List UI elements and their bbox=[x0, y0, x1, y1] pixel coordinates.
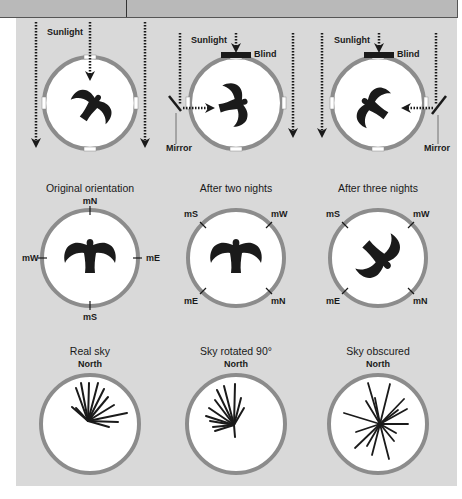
sky-panel-real: Real sky North bbox=[41, 345, 139, 473]
mS-label: mS bbox=[184, 209, 198, 219]
cage-window bbox=[282, 97, 286, 109]
mE-label: mE bbox=[146, 253, 160, 263]
cage-panel-sunlight: Sunlight bbox=[36, 22, 145, 151]
sunlight-label: Sunlight bbox=[47, 27, 83, 37]
orientation-panel-three-nights: After three nights mS mW mE mN bbox=[326, 182, 430, 306]
orientation-panel-two-nights: After two nights mS mW mE mN bbox=[184, 182, 288, 306]
cage-circle bbox=[187, 375, 285, 473]
mW-label: mW bbox=[271, 209, 288, 219]
panel-title: Sky obscured bbox=[346, 345, 410, 357]
cage-panel-mirror-right: Sunlight Blind Mirror bbox=[322, 33, 451, 153]
north-label: North bbox=[366, 359, 390, 369]
north-label: North bbox=[78, 359, 102, 369]
north-label: North bbox=[224, 359, 248, 369]
mS-label: mS bbox=[326, 209, 340, 219]
panel-title: Original orientation bbox=[46, 182, 134, 194]
mW-label: mW bbox=[413, 209, 430, 219]
bird-orientation-diagram: Sunlight Sunlight Blind Mirror Sun bbox=[0, 0, 462, 499]
sky-panel-obscured: Sky obscured North bbox=[329, 345, 427, 473]
sky-panel-rotated: Sky rotated 90° North bbox=[187, 345, 285, 473]
cage-window bbox=[230, 147, 242, 151]
cage-window bbox=[42, 97, 46, 109]
cage-window bbox=[372, 147, 384, 151]
cage-panel-mirror-left: Sunlight Blind Mirror bbox=[166, 33, 293, 153]
mirror bbox=[432, 96, 446, 114]
mS-label: mS bbox=[83, 312, 97, 322]
mN-label: mN bbox=[83, 196, 98, 206]
cage-window bbox=[330, 97, 334, 109]
mE-label: mE bbox=[184, 296, 198, 306]
cage-window bbox=[84, 147, 96, 151]
mN-label: mN bbox=[413, 296, 428, 306]
mirror-label: Mirror bbox=[166, 143, 193, 153]
panel-title: Sky rotated 90° bbox=[200, 345, 272, 357]
sunlight-label: Sunlight bbox=[334, 35, 370, 45]
panel-title: After two nights bbox=[200, 182, 272, 194]
orientation-panel-original: Original orientation mN mS mW mE bbox=[22, 182, 160, 322]
panel-title: After three nights bbox=[338, 182, 418, 194]
mN-label: mN bbox=[271, 296, 286, 306]
panel-title: Real sky bbox=[70, 345, 111, 357]
cage-circle bbox=[41, 375, 139, 473]
mE-label: mE bbox=[326, 296, 340, 306]
blind-label: Blind bbox=[397, 49, 420, 59]
blind-label: Blind bbox=[254, 49, 277, 59]
mW-label: mW bbox=[22, 253, 39, 263]
cage-circle bbox=[332, 57, 424, 149]
sunlight-label: Sunlight bbox=[191, 35, 227, 45]
blind bbox=[221, 52, 251, 58]
blind bbox=[364, 52, 394, 58]
cage-window bbox=[134, 97, 138, 109]
mirror-label: Mirror bbox=[424, 143, 451, 153]
